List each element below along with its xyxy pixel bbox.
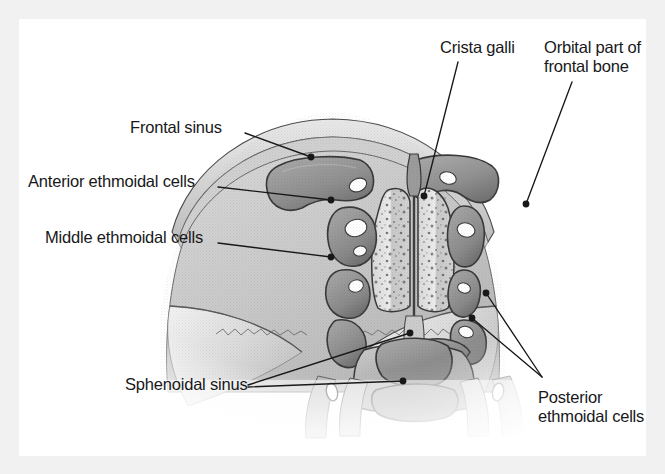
- label-sphenoidal-sinus: Sphenoidal sinus: [125, 375, 247, 394]
- label-orbital-part-of-frontal-bone: Orbital part of frontal bone: [544, 38, 645, 76]
- label-posterior-ethmoidal-cells: Posterior ethmoidal cells: [538, 388, 645, 426]
- label-anterior-ethmoidal-cells: Anterior ethmoidal cells: [28, 172, 195, 191]
- label-frontal-sinus: Frontal sinus: [130, 118, 222, 137]
- figure-panel: Frontal sinusAnterior ethmoidal cellsMid…: [20, 20, 645, 455]
- label-crista-galli: Crista galli: [440, 38, 515, 57]
- label-middle-ethmoidal-cells: Middle ethmoidal cells: [45, 228, 203, 247]
- figure-root: Frontal sinusAnterior ethmoidal cellsMid…: [0, 0, 665, 474]
